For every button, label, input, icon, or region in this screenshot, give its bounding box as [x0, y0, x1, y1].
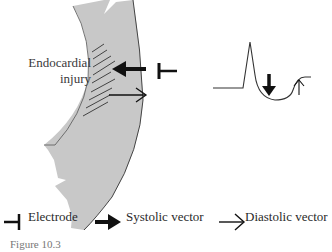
electrode-icon [159, 63, 177, 79]
legend-electrode-label: Electrode [28, 209, 78, 225]
legend-diastolic-label: Diastolic vector [245, 209, 328, 225]
legend-diastolic-arrow-icon [219, 214, 244, 230]
legend-systolic-arrow-icon [95, 214, 121, 230]
ecg-trace [213, 42, 311, 100]
injury-label-line2: injury [23, 71, 91, 87]
myocardial-wall [44, 0, 143, 230]
baseline-shift-arrow-icon [294, 80, 304, 95]
st-depression-arrow-icon [262, 74, 276, 96]
legend-systolic-label: Systolic vector [126, 209, 204, 225]
figure-caption: Figure 10.3 [10, 238, 61, 250]
legend-electrode-icon [4, 214, 19, 230]
injury-label-line1: Endocardial [23, 55, 91, 71]
